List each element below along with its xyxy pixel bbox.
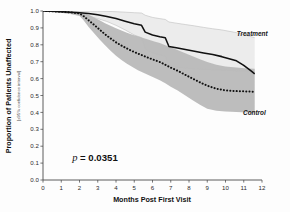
x-tick-label: 9 — [206, 184, 210, 191]
y-axis-subtitle: [±95% confidence interval] — [16, 71, 21, 121]
y-axis-tick-labels: 0.00.10.20.30.40.50.60.70.80.91.0 — [30, 7, 39, 183]
y-axis-title: Proportion of Patients Unaffected — [4, 39, 13, 154]
x-tick-label: 0 — [41, 184, 45, 191]
y-tick-label: 0.3 — [30, 125, 39, 132]
y-tick-label: 0.7 — [30, 58, 39, 65]
y-tick-label: 1.0 — [30, 7, 39, 14]
x-axis-title: Months Post First Visit — [113, 195, 191, 204]
chart-canvas: 0.00.10.20.30.40.50.60.70.80.91.0 012345… — [0, 0, 290, 212]
y-tick-label: 0.5 — [30, 92, 39, 99]
x-tick-label: 11 — [241, 184, 248, 191]
x-tick-label: 2 — [78, 184, 82, 191]
y-tick-label: 0.6 — [30, 75, 39, 82]
confidence-bands — [43, 11, 255, 113]
treatment-series-label: Treatment — [237, 30, 269, 37]
y-tick-label: 0.1 — [30, 159, 39, 166]
y-tick-label: 0.8 — [30, 41, 39, 48]
x-tick-label: 5 — [133, 184, 137, 191]
x-tick-label: 3 — [96, 184, 100, 191]
x-tick-label: 4 — [114, 184, 118, 191]
y-tick-label: 0.2 — [30, 142, 39, 149]
control-series-label: Control — [243, 109, 266, 116]
survival-curve-figure: 0.00.10.20.30.40.50.60.70.80.91.0 012345… — [0, 0, 290, 212]
x-tick-label: 6 — [151, 184, 155, 191]
x-tick-label: 7 — [169, 184, 173, 191]
y-tick-label: 0.9 — [30, 24, 39, 31]
x-tick-label: 12 — [259, 184, 266, 191]
y-tick-label: 0.4 — [30, 109, 39, 116]
x-tick-label: 8 — [187, 184, 191, 191]
p-value-annotation: p = 0.0351 — [71, 152, 118, 163]
x-axis-tick-labels: 0123456789101112 — [41, 184, 266, 191]
x-tick-label: 1 — [60, 184, 64, 191]
x-tick-label: 10 — [222, 184, 229, 191]
y-tick-label: 0.0 — [30, 176, 39, 183]
